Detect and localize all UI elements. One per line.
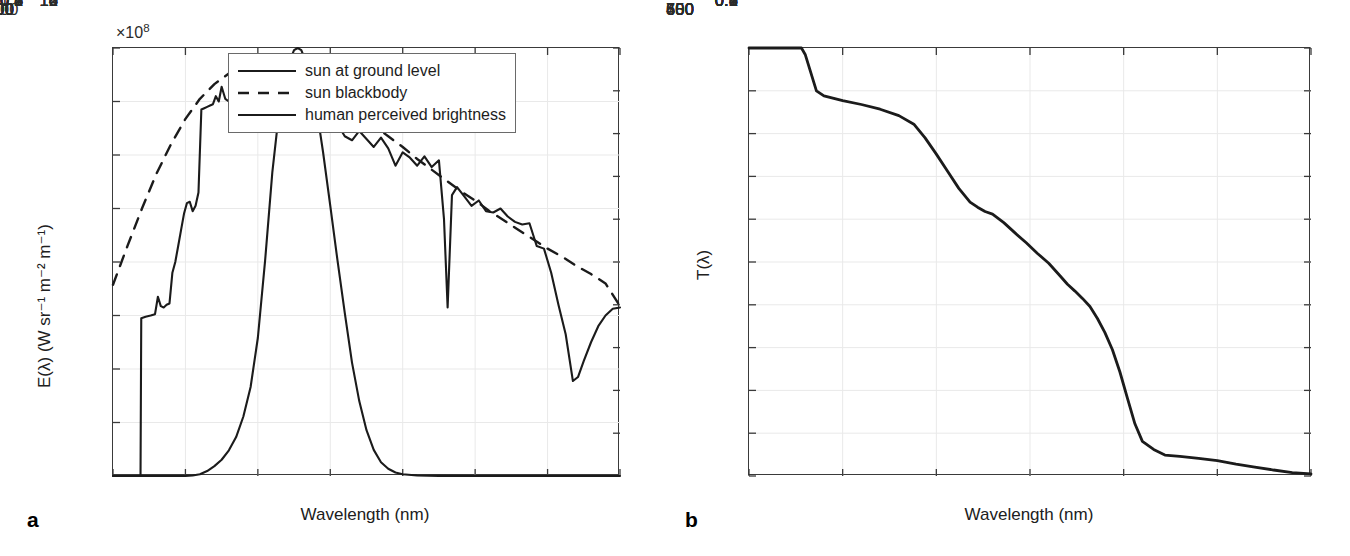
legend-entry: sun at ground level [236,60,506,82]
y-tick-label-right: 1 [0,0,9,10]
y-axis-title-a: E(λ) (W sr⁻¹ m⁻² m⁻¹) [34,224,55,388]
figure-container: ×108 Wavelength (nm) E(λ) (W sr⁻¹ m⁻² m⁻… [0,0,1350,556]
legend-line-dashed-icon [236,87,298,99]
series-line [113,87,620,476]
legend-label: human perceived brightness [305,107,506,123]
axis-exponent-label: ×108 [116,22,150,42]
panel-label-b: b [685,508,698,532]
x-axis-title-a: Wavelength (nm) [301,505,430,525]
legend-entry: human perceived brightness [236,104,506,126]
legend-line-solid-icon [236,65,298,77]
panel-a: ×108 Wavelength (nm) E(λ) (W sr⁻¹ m⁻² m⁻… [0,0,680,556]
panel-b: Wavelength (nm) T(λ) b 40045050055060065… [680,0,1350,556]
y-axis-title-b: T(λ) [694,250,714,280]
plot-area-b [748,47,1310,475]
legend-label: sun blackbody [305,85,407,101]
x-axis-title-b: Wavelength (nm) [965,505,1094,525]
panel-label-a: a [27,508,39,532]
legend-label: sun at ground level [305,63,440,79]
chart-b-svg [749,48,1311,476]
legend-line-solid-icon [236,109,298,121]
legend-entry: sun blackbody [236,82,506,104]
legend-a: sun at ground level sun blackbody human … [228,53,516,133]
y-tick-label: 1 [680,0,738,10]
